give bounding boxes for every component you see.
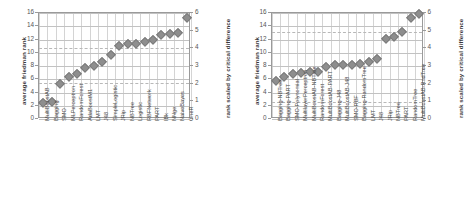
x-axis-category-label: SMO (61, 108, 67, 121)
y-axis-tick-mark-left (35, 52, 38, 53)
gridline-horizontal (39, 40, 189, 41)
chart-panel-left: average friedman rankrank scaled by crit… (0, 0, 233, 205)
y-axis-tick-label-left: 2 (18, 102, 34, 108)
x-axis-category-label: SMO-RBF (353, 95, 359, 121)
y-axis-tick-mark-left (268, 52, 271, 53)
y-axis-tick-mark-left (35, 118, 38, 119)
gridline-horizontal (272, 26, 422, 27)
y-axis-tick-label-left: 10 (251, 49, 267, 55)
y-axis-tick-label-right: 5 (428, 27, 444, 33)
y-axis-tick-label-left: 12 (18, 36, 34, 42)
gridline-horizontal (272, 53, 422, 54)
x-axis-category-label: MLPerceptron (70, 86, 76, 121)
y-axis-tick-label-left: 8 (251, 62, 267, 68)
x-axis-category-label: MultiBoostAB-NBTree (311, 66, 317, 121)
x-axis-category-label: Bagging-PART (285, 84, 291, 121)
gridline-vertical (272, 13, 273, 117)
y-axis-tick-label-right: 2 (195, 80, 211, 86)
gridline-horizontal (39, 66, 189, 67)
x-axis-category-label: RandomTree (412, 89, 418, 121)
y-axis-tick-label-right: 4 (195, 44, 211, 50)
y-axis-tick-mark-right (190, 30, 193, 31)
y-axis-tick-label-right: 5 (195, 27, 211, 33)
y-axis-tick-mark-right (423, 12, 426, 13)
y-axis-tick-label-right: 6 (195, 9, 211, 15)
y-axis-tick-mark-left (35, 105, 38, 106)
y-axis-tick-mark-left (268, 39, 271, 40)
figure-two-scatter-panels: average friedman rankrank scaled by crit… (0, 0, 465, 205)
gridline-vertical (381, 13, 382, 117)
y-axis-tick-label-left: 0 (251, 115, 267, 121)
y-axis-tick-mark-left (268, 65, 271, 66)
x-axis-category-label: MultiBoostAB-PART (327, 71, 333, 121)
y-axis-tick-label-right: 1 (428, 97, 444, 103)
y-axis-tick-mark-right (423, 30, 426, 31)
y-axis-tick-mark-right (190, 65, 193, 66)
y-axis-tick-mark-right (190, 83, 193, 84)
x-axis-category-label: J48 (378, 112, 384, 121)
x-axis-category-label: LMT (370, 110, 376, 121)
y-axis-tick-label-right: 1 (195, 97, 211, 103)
gridline-horizontal (39, 13, 189, 14)
y-axis-tick-label-right: 4 (428, 44, 444, 50)
y-axis-tick-mark-right (423, 47, 426, 48)
x-axis-category-label: RBFNetwork (146, 89, 152, 121)
y-axis-tick-mark-left (268, 105, 271, 106)
gridline-vertical (166, 13, 167, 117)
y-axis-tick-mark-left (35, 92, 38, 93)
y-axis-tick-mark-right (190, 12, 193, 13)
y-axis-tick-label-right: 0 (428, 115, 444, 121)
x-axis-category-label: AdaBoostM1 (87, 89, 93, 121)
y-axis-tick-label-left: 14 (18, 22, 34, 28)
x-axis-category-label: Bagging (53, 100, 59, 121)
x-axis-category-label: NNge (171, 107, 177, 121)
x-axis-category-label: MultiBoostAB-RndTree (420, 64, 426, 121)
y-axis-tick-mark-right (190, 100, 193, 101)
y-axis-tick-label-left: 8 (18, 62, 34, 68)
y-axis-tick-label-right: 0 (195, 115, 211, 121)
y-axis-tick-label-right: 3 (195, 62, 211, 68)
x-axis-category-label: Logistic (137, 102, 143, 121)
x-axis-category-label: PART (154, 107, 160, 121)
y-axis-tick-label-left: 6 (251, 75, 267, 81)
y-axis-tick-mark-left (268, 78, 271, 79)
y-axis-tick-mark-left (268, 92, 271, 93)
x-axis-category-label: SimpleLogistic (112, 85, 118, 121)
x-axis-category-label: PART (403, 107, 409, 121)
gridline-vertical (373, 13, 374, 117)
y-axis-title-left: average friedman rank (20, 37, 27, 105)
y-axis-tick-label-right: 6 (428, 9, 444, 15)
gridline-vertical (390, 13, 391, 117)
y-axis-tick-mark-right (190, 47, 193, 48)
x-axis-category-label: NBTree (395, 102, 401, 121)
y-axis-tick-mark-left (35, 12, 38, 13)
x-axis-category-label: Bagging-J48 (336, 90, 342, 121)
x-axis-category-label: NaiveBayes (179, 91, 185, 121)
x-axis-category-label: JRip (120, 110, 126, 121)
y-axis-tick-label-left: 4 (251, 89, 267, 95)
y-axis-title-right: rank scaled by critical difference (457, 19, 464, 118)
y-axis-tick-label-left: 12 (251, 36, 267, 42)
y-axis-tick-label-left: 4 (18, 89, 34, 95)
x-axis-category-label: MultiBoostAB (44, 87, 50, 121)
gridline-vertical (64, 13, 65, 117)
y-axis-tick-label-left: 2 (251, 102, 267, 108)
y-axis-tick-mark-left (35, 65, 38, 66)
x-axis-category-label: Bagging-NBTree (277, 80, 283, 121)
x-axis-category-label: IBk (163, 113, 169, 121)
x-axis-category-label: MultiBoostAB-J48 (344, 77, 350, 121)
y-axis-tick-mark-left (35, 78, 38, 79)
gridline-vertical (123, 13, 124, 117)
gridline-horizontal (272, 40, 422, 41)
gridline-horizontal (272, 13, 422, 14)
x-axis-category-label: RandomForest (78, 84, 84, 121)
y-axis-tick-label-right: 2 (428, 80, 444, 86)
y-axis-tick-label-left: 10 (18, 49, 34, 55)
x-axis-category-label: Bagging-RandomTree (361, 66, 367, 121)
gridline-vertical (107, 13, 108, 117)
x-axis-category-label: MultilayerPerceptron (302, 70, 308, 121)
y-axis-tick-label-left: 0 (18, 115, 34, 121)
y-axis-tick-label-left: 14 (251, 22, 267, 28)
x-axis-category-label: J48 (103, 112, 109, 121)
y-axis-tick-mark-left (268, 118, 271, 119)
